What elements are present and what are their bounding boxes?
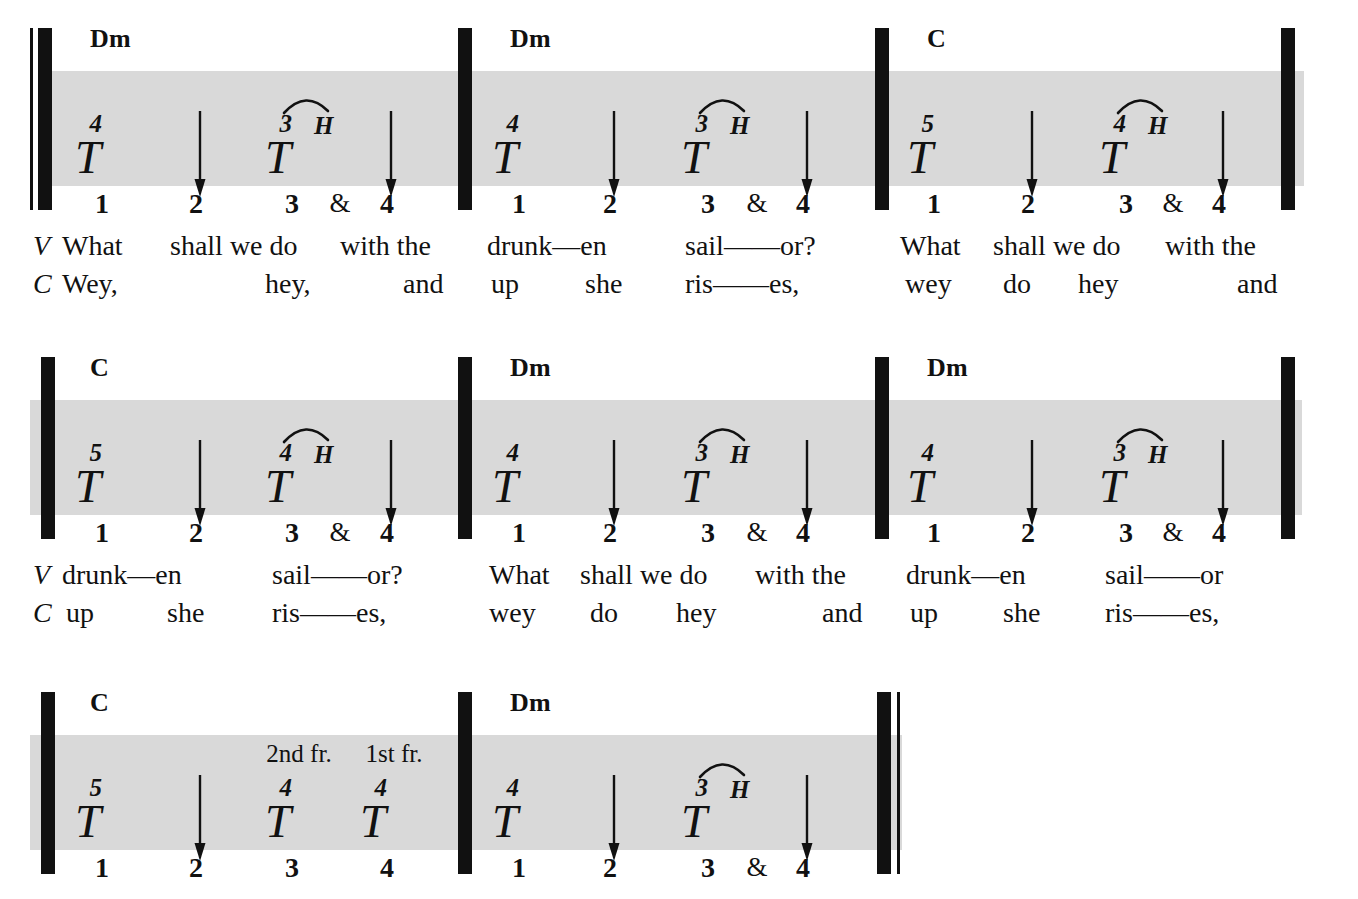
barline-thick (875, 357, 889, 539)
lyric-word: do (1003, 270, 1031, 298)
barline-thick (458, 692, 472, 874)
downstroke-arrow-icon (193, 775, 207, 861)
lyric-word: shall we do (170, 232, 298, 260)
beat-count: 4 (779, 854, 827, 882)
lyric-word: Wey, (62, 270, 118, 298)
beat-count: 3 (1102, 190, 1150, 218)
barline-thick (875, 28, 889, 210)
beat-count: 3 (268, 854, 316, 882)
thumb-stroke-symbol: T (1092, 463, 1132, 510)
beat-count: & (1149, 190, 1197, 217)
lyric-word: What (900, 232, 961, 260)
beat-count: 4 (363, 854, 411, 882)
hammer-on-symbol: H (314, 113, 333, 138)
lyric-word: and (403, 270, 443, 298)
chord-symbol: Dm (510, 690, 551, 716)
beat-count: 4 (1195, 519, 1243, 547)
downstroke-arrow-icon (607, 775, 621, 861)
lyric-word: up (66, 599, 94, 627)
chord-symbol: Dm (510, 355, 551, 381)
beat-count: 1 (78, 854, 126, 882)
thumb-stroke-symbol: T (485, 134, 525, 181)
lyric-word: with the (340, 232, 431, 260)
lyric-row-verse: VWhatshall we dowith thedrunk—ensail——or… (0, 232, 1358, 270)
lyric-word: with the (755, 561, 846, 589)
beat-count: 1 (910, 519, 958, 547)
chord-symbol: Dm (90, 26, 131, 52)
thumb-stroke-symbol: T (485, 798, 525, 845)
lyric-word: drunk—en (487, 232, 607, 260)
downstroke-arrow-icon (384, 440, 398, 526)
downstroke-arrow-icon (607, 440, 621, 526)
thumb-stroke-symbol: T (674, 463, 714, 510)
lyric-word: What (62, 232, 123, 260)
beat-count: 1 (495, 854, 543, 882)
lyric-row-chorus: CWey,hey,andupsheris——es,weydoheyand (0, 270, 1358, 308)
beat-count: 2 (1004, 519, 1052, 547)
lyric-word: hey (1078, 270, 1118, 298)
system-2: C5T124TH3&4Dm4T123TH3&4Dm4T123TH3&4 (0, 343, 1358, 548)
hammer-on-symbol: H (730, 777, 749, 802)
lyric-word: wey (489, 599, 536, 627)
downstroke-arrow-icon (800, 111, 814, 197)
lyric-word: she (585, 270, 622, 298)
lyric-tag-verse: V (33, 232, 50, 260)
barline-thin (30, 28, 33, 210)
lyric-word: sail——or? (685, 232, 816, 260)
lyric-word: drunk—en (906, 561, 1026, 589)
lyric-word: ris——es, (685, 270, 799, 298)
lyric-word: hey, (265, 270, 311, 298)
downstroke-arrow-icon (1216, 111, 1230, 197)
thumb-stroke-symbol: T (900, 463, 940, 510)
beat-count: 2 (1004, 190, 1052, 218)
beat-count: & (316, 190, 364, 217)
lyric-block: Vdrunk—ensail——or?Whatshall we dowith th… (0, 561, 1358, 641)
beat-count: 4 (363, 190, 411, 218)
downstroke-arrow-icon (1025, 440, 1039, 526)
chord-symbol: Dm (927, 355, 968, 381)
barline-thick (41, 357, 55, 539)
thumb-stroke-symbol: T (674, 134, 714, 181)
lyric-word: she (167, 599, 204, 627)
lyric-word: up (910, 599, 938, 627)
beat-count: 4 (363, 519, 411, 547)
lyric-tag-verse: V (33, 561, 50, 589)
beat-count: 2 (586, 190, 634, 218)
barline-thick (1281, 357, 1295, 539)
hammer-on-symbol: H (730, 442, 749, 467)
beat-count: 1 (495, 190, 543, 218)
lyric-word: do (590, 599, 618, 627)
downstroke-arrow-icon (1216, 440, 1230, 526)
thumb-stroke-symbol: T (68, 463, 108, 510)
beat-count: 3 (684, 519, 732, 547)
barline-thick (38, 28, 52, 210)
barline-thick (458, 28, 472, 210)
lyric-word: ris——es, (1105, 599, 1219, 627)
barline-thick (1281, 28, 1295, 210)
thumb-stroke-symbol: T (68, 134, 108, 181)
lyric-word: drunk—en (62, 561, 182, 589)
lyric-word: and (1237, 270, 1277, 298)
barline-thin (897, 692, 900, 874)
chord-symbol: C (90, 690, 109, 716)
staff: C5T122nd fr.4T31st fr.4T4Dm4T123TH3&4 (0, 678, 1358, 883)
beat-count: & (316, 519, 364, 546)
hammer-on-symbol: H (314, 442, 333, 467)
beat-count: & (733, 519, 781, 546)
lyric-word: sail——or? (272, 561, 403, 589)
lyric-row-verse: Vdrunk—ensail——or?Whatshall we dowith th… (0, 561, 1358, 599)
beat-count: 3 (684, 854, 732, 882)
lyric-word: wey (905, 270, 952, 298)
staff: C5T124TH3&4Dm4T123TH3&4Dm4T123TH3&4 (0, 343, 1358, 548)
beat-count: & (1149, 519, 1197, 546)
fret-position-label: 2nd fr. (244, 741, 354, 766)
thumb-stroke-symbol: T (1092, 134, 1132, 181)
beat-count: 2 (586, 519, 634, 547)
chord-symbol: C (90, 355, 109, 381)
system-3: C5T122nd fr.4T31st fr.4T4Dm4T123TH3&4 (0, 678, 1358, 883)
downstroke-arrow-icon (384, 111, 398, 197)
downstroke-arrow-icon (193, 111, 207, 197)
thumb-stroke-symbol: T (674, 798, 714, 845)
beat-count: 4 (779, 190, 827, 218)
thumb-stroke-symbol: T (258, 463, 298, 510)
